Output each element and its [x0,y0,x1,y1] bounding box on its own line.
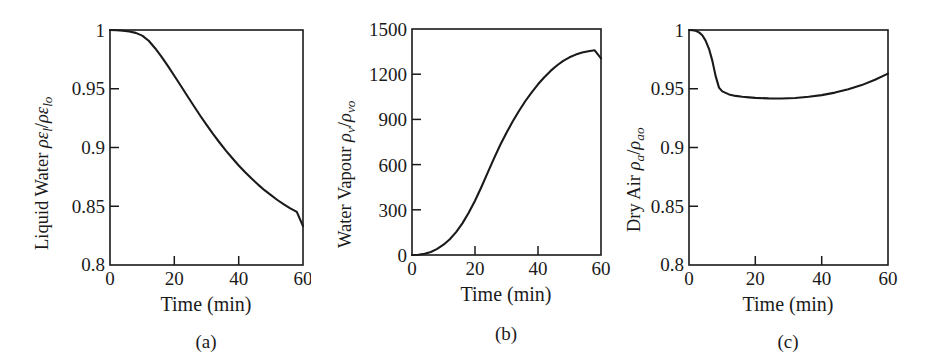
panel-c: Dry Air ρa/ρao 1 0.95 0.9 0.85 0.8 Time [622,0,933,362]
panel-a-ytick-label-09: 0.9 [81,137,105,158]
panel-a-ytick-marks [110,89,119,207]
panel-b-xtick-labels: 0 20 40 60 [407,258,610,279]
panel-c-ytick-label-085: 0.85 [651,196,684,217]
panel-c-xtick-marks [755,256,821,265]
panel-c-xlabel: Time (min) [743,293,834,316]
panel-a-caption: (a) [195,331,216,353]
panel-b-ytick-label-600: 600 [379,155,408,176]
panel-c-ylabel: Dry Air ρa/ρao [624,127,647,232]
panel-b-xtick-label-20: 20 [466,258,485,279]
panel-c-xtick-label-40: 40 [812,268,831,289]
panel-a-ytick-labels: 1 0.95 0.9 0.85 0.8 [72,20,105,275]
figure-container: Liquid Water ρεl/ρεlo 1 0.95 0.9 0.85 0.… [0,0,935,362]
panel-a-curve [110,30,303,226]
panel-b-svg: Water Vapour ρv/ρvo 1500 1200 900 600 30… [311,0,622,362]
panel-b-xlabel: Time (min) [461,283,552,306]
panel-c-ytick-label-09: 0.9 [660,137,684,158]
panel-a-plot-frame [110,30,303,265]
panel-a-xtick-labels: 0 20 40 60 [105,268,311,289]
panel-a-xtick-label-60: 60 [294,268,312,289]
panel-b-caption: (b) [495,323,517,345]
panel-a-xtick-label-20: 20 [165,268,184,289]
panel-b-ytick-label-1200: 1200 [369,64,407,85]
panel-c-caption: (c) [777,331,798,353]
panel-c-ylabel-group: Dry Air ρa/ρao [624,127,647,232]
panel-a-ytick-label-085: 0.85 [72,196,105,217]
panel-b-ytick-label-1500: 1500 [369,19,407,40]
panel-b-ytick-label-0: 0 [398,245,408,266]
panel-a-xtick-label-40: 40 [229,268,248,289]
panel-c-xtick-label-60: 60 [879,268,898,289]
panel-a-xtick-marks [174,256,238,265]
panel-b-xtick-marks [475,246,538,255]
panel-a-ytick-label-1: 1 [96,20,106,41]
panel-c-svg: Dry Air ρa/ρao 1 0.95 0.9 0.85 0.8 Time [622,0,935,362]
panel-a: Liquid Water ρεl/ρεlo 1 0.95 0.9 0.85 0.… [0,0,311,362]
panel-c-plot-frame [689,30,888,265]
panel-c-ytick-label-095: 0.95 [651,78,684,99]
panel-b-ytick-label-300: 300 [379,200,408,221]
panel-c-xtick-labels: 0 20 40 60 [684,268,897,289]
panel-c-ytick-labels: 1 0.95 0.9 0.85 0.8 [651,20,684,275]
panel-a-ytick-label-08: 0.8 [81,254,105,275]
panel-b-xtick-label-40: 40 [529,258,548,279]
panel-a-xlabel: Time (min) [161,293,252,316]
panel-b-curve [412,50,601,255]
panel-b-ylabel: Water Vapour ρv/ρvo [335,100,358,248]
panel-c-xtick-label-20: 20 [746,268,765,289]
panel-c-ytick-label-08: 0.8 [660,254,684,275]
panel-c-curve [689,30,888,99]
panel-a-ylabel: Liquid Water ρεl/ρεlo [32,96,55,250]
panel-c-ytick-marks [689,89,698,207]
panel-a-ytick-label-095: 0.95 [72,78,105,99]
panel-b: Water Vapour ρv/ρvo 1500 1200 900 600 30… [311,0,622,362]
panel-c-xtick-label-0: 0 [684,268,694,289]
panel-b-xtick-label-0: 0 [407,258,417,279]
panel-b-ylabel-group: Water Vapour ρv/ρvo [335,100,358,248]
panel-b-ytick-labels: 1500 1200 900 600 300 0 [369,19,407,266]
panel-b-ytick-marks [412,74,421,210]
panel-c-ytick-label-1: 1 [675,20,685,41]
panel-b-xtick-label-60: 60 [592,258,611,279]
panel-a-ylabel-group: Liquid Water ρεl/ρεlo [32,96,55,250]
panel-b-ytick-label-900: 900 [379,109,408,130]
panel-b-plot-frame [412,29,601,255]
panel-a-svg: Liquid Water ρεl/ρεlo 1 0.95 0.9 0.85 0.… [0,0,311,362]
panel-a-xtick-label-0: 0 [105,268,115,289]
